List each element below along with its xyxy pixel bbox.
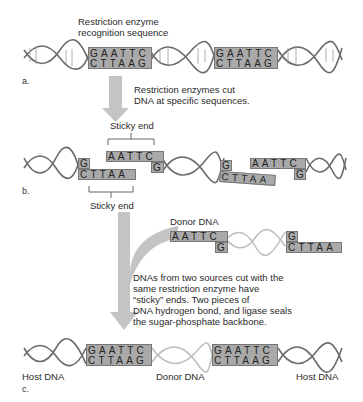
sticky-end-label-bottom: Sticky end [90, 200, 134, 211]
sticky-end-label-top: Sticky end [110, 120, 154, 131]
recombinant-site-1: GAATTC CTTAAG [86, 344, 152, 366]
donor-dna-label: Donor DNA [170, 216, 219, 227]
donor-left-g: G [215, 242, 228, 253]
dna-helix-a [0, 40, 363, 80]
panel-label-b: b. [22, 186, 30, 196]
recognition-site-1: GAATTC CTTAAG [88, 47, 152, 69]
fragment-right-g: G [151, 162, 164, 173]
dna-helix-c [0, 342, 363, 372]
sticky-end-bracket-top [106, 132, 166, 146]
recognition-sequence-caption: Restriction enzyme recognition sequence [78, 16, 168, 38]
panel-label-a: a. [22, 76, 30, 86]
recombinant-site-2: GAATTC CTTAAG [212, 344, 278, 366]
down-arrow-1 [103, 76, 133, 126]
fragment-left-g: G [78, 158, 90, 169]
fragment2-left-g: G [220, 160, 232, 171]
panel-label-c: c. [22, 384, 29, 394]
host-dna-label-right: Host DNA [296, 371, 338, 382]
fragment2-right-g: G [294, 169, 306, 180]
donor-right-g: G [286, 231, 298, 242]
donor-left-aattc: AATTC [170, 231, 228, 242]
fragment2-right-aattc: AATTC [250, 158, 306, 169]
dna-helix-b [0, 150, 363, 190]
fragment-right-aattc: AATTC [106, 151, 164, 162]
donor-right-cttaa: CTTAA [286, 242, 342, 253]
recognition-site-2: GAATTC CTTAAG [214, 47, 278, 69]
ligation-description: DNAs from two sources cut with the same … [133, 272, 292, 327]
donor-helix [219, 228, 289, 254]
sticky-end-bracket-bottom [87, 185, 147, 199]
donor-dna-label-middle: Donor DNA [156, 371, 205, 382]
fragment-left-cttaa: CTTAA [78, 169, 136, 180]
host-dna-label-left: Host DNA [22, 371, 64, 382]
cut-description: Restriction enzymes cut DNA at specific … [134, 84, 250, 106]
